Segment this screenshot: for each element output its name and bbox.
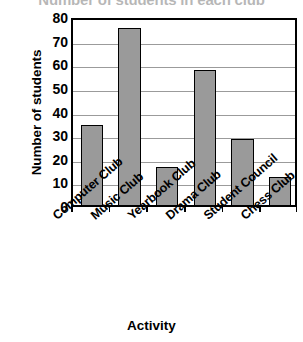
y-axis-tick-labels: 01020304050607080 xyxy=(40,11,68,211)
x-axis-title: Activity xyxy=(0,318,303,333)
y-axis-tick-label: 30 xyxy=(40,129,68,143)
x-axis-category-labels: Computer ClubMusic ClubYearbook ClubDram… xyxy=(0,212,303,296)
y-axis-tick-label: 70 xyxy=(40,35,68,49)
chart-title: Number of students in each club xyxy=(0,0,303,5)
y-axis-tick-label: 50 xyxy=(40,82,68,96)
bar-chart-figure: Number of students in each club Number o… xyxy=(0,0,303,342)
y-axis-tick-label: 20 xyxy=(40,153,68,167)
y-axis-tick-label: 80 xyxy=(40,11,68,25)
y-axis-tick-label: 60 xyxy=(40,58,68,72)
y-axis-tick-label: 40 xyxy=(40,106,68,120)
y-axis-tick-label: 10 xyxy=(40,176,68,190)
